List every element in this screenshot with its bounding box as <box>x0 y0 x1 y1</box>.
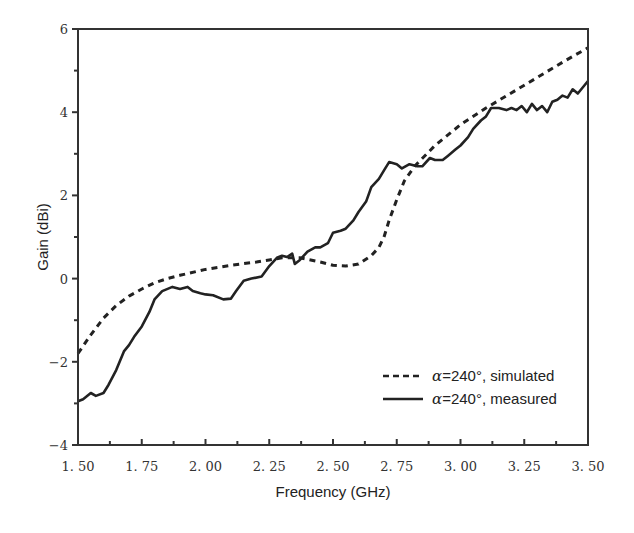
x-tick-label: 3. 25 <box>508 459 541 474</box>
x-tick-label: 2. 00 <box>189 459 222 474</box>
y-tick-label: 2 <box>60 188 68 203</box>
y-axis-title: Gain (dBi) <box>34 203 51 271</box>
y-tick-label: −4 <box>49 438 68 453</box>
x-axis-title: Frequency (GHz) <box>275 483 390 500</box>
legend-alpha-symbol: α <box>432 390 442 408</box>
series-measured-line <box>78 81 588 401</box>
legend-alpha-symbol: α <box>432 367 442 385</box>
legend-item-simulated: α=240°, simulated <box>383 367 554 385</box>
data-series <box>78 48 588 402</box>
x-tick-label: 3. 50 <box>571 459 604 474</box>
x-tick-label: 3. 00 <box>444 459 477 474</box>
legend-item-measured: α=240°, measured <box>383 390 557 408</box>
x-tick-label: 2. 50 <box>316 459 349 474</box>
series-simulated-line <box>78 48 588 354</box>
x-tick-label: 1. 75 <box>125 459 158 474</box>
y-tick-label: 4 <box>60 105 68 120</box>
legend-label-simulated: =240°, simulated <box>442 367 554 384</box>
legend-label-measured: =240°, measured <box>442 390 557 407</box>
y-tick-label: 0 <box>60 272 68 287</box>
x-tick-label: 2. 25 <box>253 459 286 474</box>
svg-text:α=240°, measured: α=240°, measured <box>432 390 557 408</box>
svg-text:α=240°, simulated: α=240°, simulated <box>432 367 554 385</box>
x-tick-label: 2. 75 <box>380 459 413 474</box>
y-tick-label: 6 <box>60 22 68 37</box>
legend: α=240°, simulated α=240°, measured <box>383 367 557 408</box>
gain-frequency-chart: 1. 501. 752. 002. 252. 502. 753. 003. 25… <box>0 0 634 533</box>
y-tick-label: −2 <box>49 355 68 370</box>
x-tick-label: 1. 50 <box>61 459 94 474</box>
